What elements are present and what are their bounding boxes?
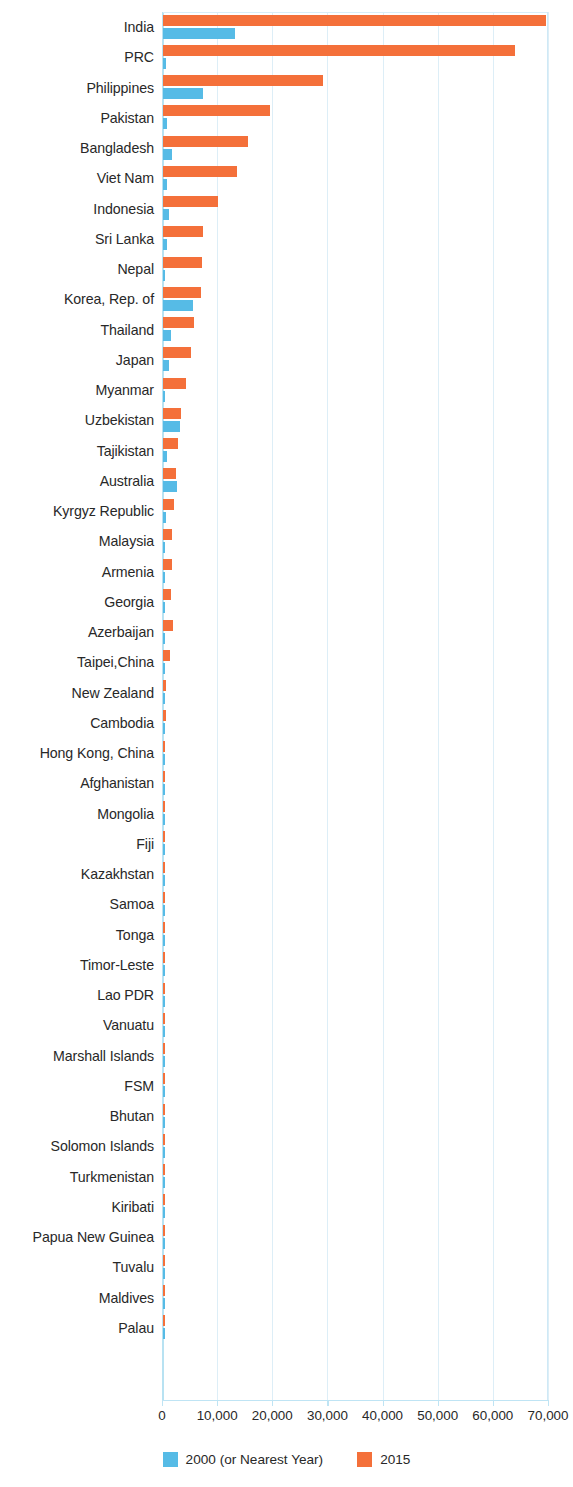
bar-track (162, 163, 573, 193)
bar-2000 (163, 1026, 165, 1037)
bar-row: Uzbekistan (0, 405, 573, 435)
bar-2015 (163, 1134, 165, 1145)
bar-track (162, 375, 573, 405)
bar-track (162, 466, 573, 496)
bar-row: Timor-Leste (0, 950, 573, 980)
x-tick-label: 60,000 (472, 1408, 513, 1423)
chart-legend: 2000 (or Nearest Year)2015 (0, 1452, 573, 1467)
bar-2015 (163, 438, 178, 449)
bar-row: Nepal (0, 254, 573, 284)
legend-swatch-icon (357, 1452, 372, 1467)
bar-track (162, 103, 573, 133)
bar-2000 (163, 28, 235, 39)
x-tick-label: 30,000 (307, 1408, 348, 1423)
bar-2015 (163, 1073, 165, 1084)
bar-2000 (163, 300, 193, 311)
bar-2000 (163, 1238, 165, 1249)
x-tick-mark (217, 1400, 218, 1406)
category-label: Uzbekistan (0, 405, 162, 435)
x-tick-mark (162, 1400, 163, 1406)
category-label: Armenia (0, 557, 162, 587)
category-label: New Zealand (0, 678, 162, 708)
bar-2015 (163, 287, 201, 298)
bar-2015 (163, 559, 172, 570)
bar-2015 (163, 529, 172, 540)
bar-track (162, 1162, 573, 1192)
bar-track (162, 1313, 573, 1343)
x-tick-mark (272, 1400, 273, 1406)
bar-track (162, 405, 573, 435)
bar-2000 (163, 633, 165, 644)
bar-2000 (163, 844, 165, 855)
category-label: Hong Kong, China (0, 738, 162, 768)
bar-row: Armenia (0, 557, 573, 587)
bar-track (162, 829, 573, 859)
bar-track (162, 436, 573, 466)
bar-row: India (0, 12, 573, 42)
bar-row: Australia (0, 466, 573, 496)
bar-2000 (163, 179, 167, 190)
bar-2000 (163, 875, 165, 886)
bar-track (162, 1101, 573, 1131)
bar-row: Mongolia (0, 799, 573, 829)
bar-track (162, 950, 573, 980)
bar-track (162, 315, 573, 345)
bar-row: Bangladesh (0, 133, 573, 163)
legend-item[interactable]: 2000 (or Nearest Year) (163, 1452, 324, 1467)
x-tick-mark (383, 1400, 384, 1406)
legend-item[interactable]: 2015 (357, 1452, 410, 1467)
category-label: Australia (0, 466, 162, 496)
bar-track (162, 42, 573, 72)
bar-2015 (163, 1043, 165, 1054)
bar-row: PRC (0, 42, 573, 72)
x-tick-mark (548, 1400, 549, 1406)
bar-track (162, 12, 573, 42)
bar-row: Hong Kong, China (0, 738, 573, 768)
bar-2000 (163, 935, 165, 946)
bar-track (162, 889, 573, 919)
bar-2015 (163, 589, 171, 600)
bar-2000 (163, 602, 165, 613)
bar-row: Fiji (0, 829, 573, 859)
bar-row: Maldives (0, 1283, 573, 1313)
bar-track (162, 1041, 573, 1071)
bar-row: Sri Lanka (0, 224, 573, 254)
bar-2000 (163, 88, 203, 99)
category-label: Malaysia (0, 526, 162, 556)
bar-2015 (163, 408, 181, 419)
bar-row: Azerbaijan (0, 617, 573, 647)
category-label: Viet Nam (0, 163, 162, 193)
bar-track (162, 980, 573, 1010)
bar-track (162, 708, 573, 738)
bar-2000 (163, 209, 169, 220)
bar-2000 (163, 360, 169, 371)
category-label: Bangladesh (0, 133, 162, 163)
bar-row: Kiribati (0, 1192, 573, 1222)
bar-2015 (163, 710, 166, 721)
bar-track (162, 526, 573, 556)
category-label: Pakistan (0, 103, 162, 133)
bar-row: Myanmar (0, 375, 573, 405)
bar-2015 (163, 983, 165, 994)
x-tick-mark (493, 1400, 494, 1406)
bar-2000 (163, 149, 172, 160)
bar-row: Bhutan (0, 1101, 573, 1131)
bar-row: Papua New Guinea (0, 1222, 573, 1252)
bar-row: Samoa (0, 889, 573, 919)
bar-2000 (163, 663, 165, 674)
bar-2000 (163, 1177, 165, 1188)
bar-row: Thailand (0, 315, 573, 345)
bar-track (162, 1010, 573, 1040)
bar-row: Pakistan (0, 103, 573, 133)
bar-track (162, 1071, 573, 1101)
bar-2000 (163, 1117, 165, 1128)
bar-2015 (163, 620, 173, 631)
category-label: PRC (0, 42, 162, 72)
bar-track (162, 1283, 573, 1313)
x-tick-label: 0 (158, 1408, 165, 1423)
bar-2015 (163, 892, 165, 903)
bar-track (162, 224, 573, 254)
x-tick-label: 40,000 (362, 1408, 403, 1423)
bar-row: Marshall Islands (0, 1041, 573, 1071)
category-label: Tajikistan (0, 436, 162, 466)
